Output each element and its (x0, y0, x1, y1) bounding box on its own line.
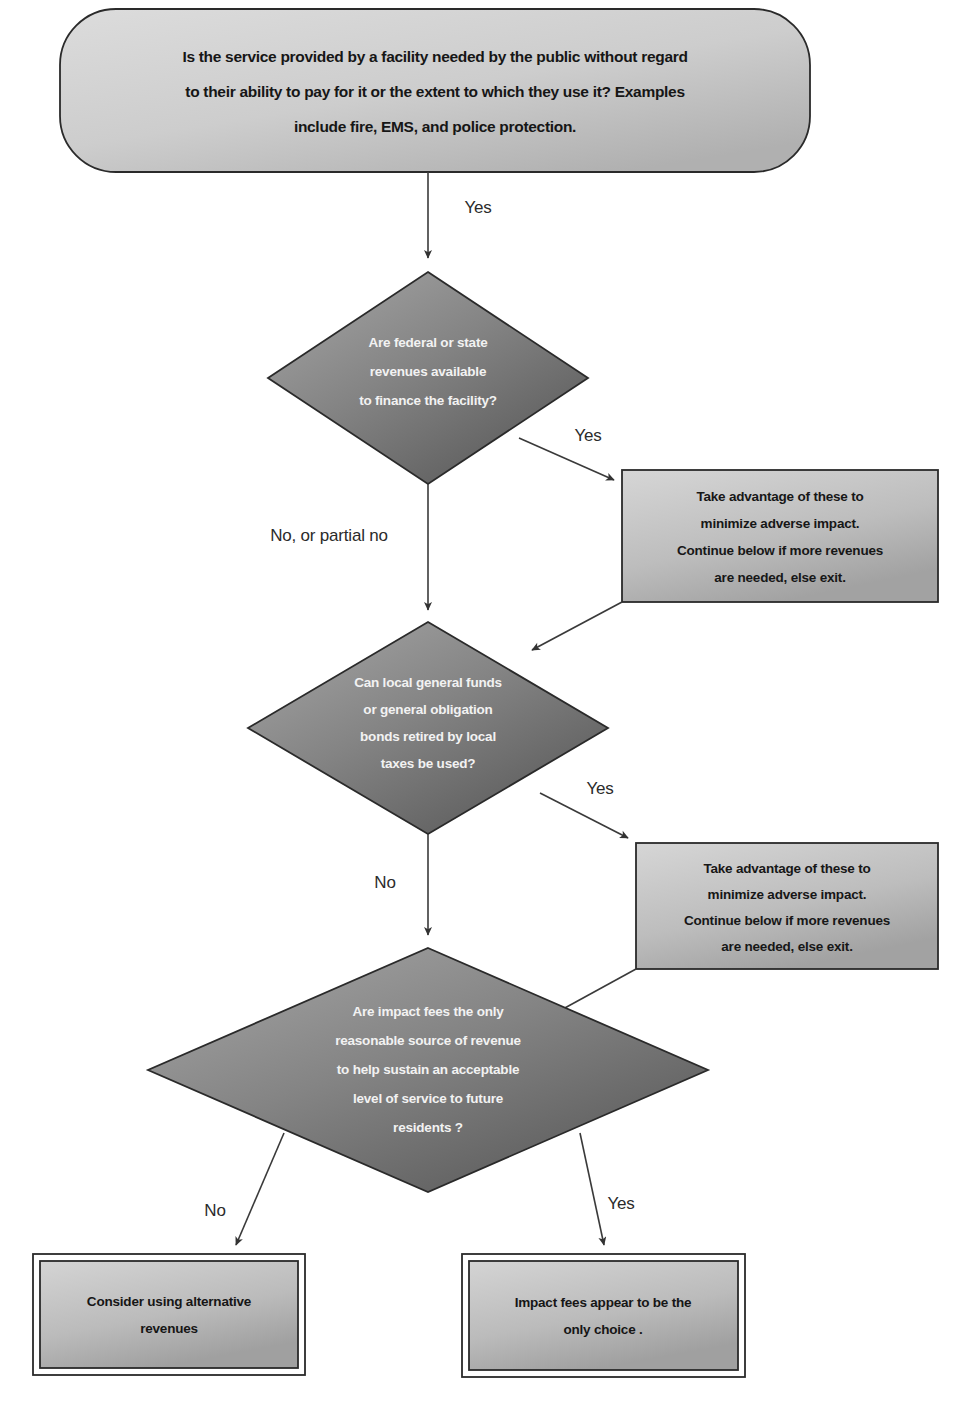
result-right-line-2: only choice . (563, 1322, 642, 1337)
decision1-line-2: revenues available (370, 364, 487, 379)
process2-line-4: are needed, else exit. (721, 939, 852, 954)
process1-line-4: are needed, else exit. (714, 570, 845, 585)
edge-label-no-2: No (204, 1201, 225, 1220)
result-left-line-2: revenues (140, 1321, 198, 1336)
decision2-line-1: Can local general funds (354, 675, 502, 690)
result-left-shape (40, 1261, 298, 1368)
edge-start-to-decision1: Yes (428, 172, 492, 258)
flowchart-diagram: Is the service provided by a facility ne… (0, 0, 962, 1411)
result-right-shape (469, 1261, 738, 1370)
node-decision3: Are impact fees the only reasonable sour… (148, 948, 708, 1192)
edge-label-no-partial: No, or partial no (270, 526, 388, 545)
node-process2: Take advantage of these to minimize adve… (636, 843, 938, 969)
result-right-line-1: Impact fees appear to be the (515, 1295, 692, 1310)
node-decision2: Can local general funds or general oblig… (248, 622, 608, 834)
decision3-line-1: Are impact fees the only (352, 1004, 504, 1019)
process2-line-2: minimize adverse impact. (708, 887, 867, 902)
edge-label-yes-4: Yes (607, 1194, 634, 1213)
edge-decision3-to-result-right: Yes (580, 1133, 635, 1245)
process1-line-1: Take advantage of these to (696, 489, 863, 504)
start-line-3: include fire, EMS, and police protection… (294, 118, 576, 135)
edge-decision2-to-decision3: No (374, 834, 428, 935)
decision2-line-4: taxes be used? (381, 756, 476, 771)
decision1-line-1: Are federal or state (368, 335, 488, 350)
process1-line-2: minimize adverse impact. (701, 516, 860, 531)
decision1-line-3: to finance the facility? (359, 393, 497, 408)
flowchart-canvas: Is the service provided by a facility ne… (0, 0, 962, 1411)
start-line-2: to their ability to pay for it or the ex… (185, 83, 684, 100)
decision3-line-3: to help sustain an acceptable (337, 1062, 520, 1077)
edge-label-yes-3: Yes (586, 779, 613, 798)
node-start: Is the service provided by a facility ne… (60, 9, 810, 172)
edge-process1-to-decision2 (532, 602, 622, 650)
decision3-line-2: reasonable source of revenue (335, 1033, 521, 1048)
decision2-line-3: bonds retired by local (360, 729, 496, 744)
process2-line-1: Take advantage of these to (703, 861, 870, 876)
result-left-line-1: Consider using alternative (87, 1294, 252, 1309)
process1-line-3: Continue below if more revenues (677, 543, 883, 558)
edge-decision1-to-decision2: No, or partial no (270, 484, 428, 610)
node-process1: Take advantage of these to minimize adve… (622, 470, 938, 602)
decision3-line-4: level of service to future (353, 1091, 504, 1106)
node-result-left: Consider using alternative revenues (33, 1254, 305, 1375)
start-line-1: Is the service provided by a facility ne… (182, 48, 687, 65)
decision3-line-5: residents ? (393, 1120, 463, 1135)
edge-decision3-to-result-left: No (204, 1133, 284, 1245)
edge-label-no-1: No (374, 873, 395, 892)
edge-decision1-to-process1: Yes (519, 426, 614, 480)
edge-label-yes-1: Yes (464, 198, 491, 217)
edge-decision2-to-process2: Yes (540, 779, 628, 838)
process2-line-3: Continue below if more revenues (684, 913, 890, 928)
decision2-line-2: or general obligation (363, 702, 492, 717)
node-result-right: Impact fees appear to be the only choice… (462, 1254, 745, 1377)
edge-label-yes-2: Yes (574, 426, 601, 445)
node-decision1: Are federal or state revenues available … (268, 272, 588, 484)
